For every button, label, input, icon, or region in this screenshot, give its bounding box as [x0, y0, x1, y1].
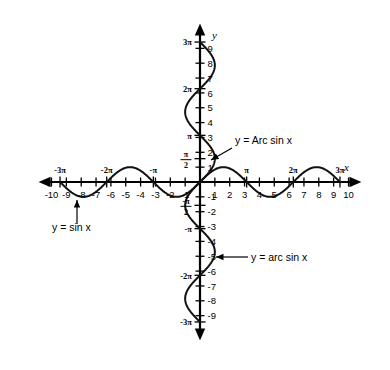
y-axis-pi-tick-label: 2π	[183, 84, 192, 94]
x-axis-pi-tick-label: 2π	[289, 165, 298, 175]
y-axis-tick-label: 3	[208, 132, 213, 143]
y-axis-pi-fraction-numerator: -π	[182, 197, 190, 206]
y-axis-tick-label: 7	[208, 73, 213, 84]
y-axis-tick-label: 5	[208, 102, 213, 113]
x-axis-tick-label: -6	[107, 189, 115, 200]
y-axis-tick-label: -5	[208, 251, 216, 262]
x-axis-tick-label: 10	[343, 189, 354, 200]
x-axis-tick-label: -2	[166, 189, 174, 200]
y-axis-pi-fraction-numerator: π	[184, 150, 189, 159]
x-axis-tick-label: 8	[316, 189, 321, 200]
y-axis-tick-label: -3	[208, 221, 216, 232]
y-axis-bottom-arrowhead	[195, 328, 205, 340]
x-axis-tick-label: -9	[62, 189, 70, 200]
x-axis-tick-label: -4	[136, 189, 144, 200]
callout-label-arcsin-relation: y = arc sin x	[251, 251, 308, 263]
y-axis-tick-label: 6	[208, 88, 213, 99]
callout-label-arcsin-principal: y = Arc sin x	[235, 134, 293, 146]
x-axis-left-arrowhead	[39, 177, 51, 187]
x-axis-tick-label: -10	[45, 189, 59, 200]
callout-label-sine: y = sin x	[52, 221, 92, 233]
y-axis-pi-tick-label: -3π	[180, 317, 192, 327]
x-axis-tick-label: -3	[151, 189, 159, 200]
x-axis-tick-label: 9	[331, 189, 336, 200]
x-axis-pi-tick-label: π	[244, 165, 249, 175]
x-axis-tick-label: 3	[242, 189, 247, 200]
coordinate-plane-svg: yx-10-9-8-7-6-5-4-3-2-112345678910-9-8-7…	[0, 0, 390, 370]
callout-arrowhead	[74, 200, 80, 208]
y-axis-tick-label: 8	[208, 58, 213, 69]
x-axis-pi-tick-label: -π	[150, 165, 158, 175]
y-axis-tick-label: -6	[208, 266, 216, 277]
x-axis-tick-label: 6	[286, 189, 291, 200]
y-axis-pi-tick-label: -2π	[180, 271, 192, 281]
x-axis-tick-label: -7	[92, 189, 100, 200]
y-axis-tick-label: -2	[208, 206, 216, 217]
x-axis-pi-tick-label: 3π	[335, 165, 344, 175]
y-axis-tick-label: 2	[208, 147, 213, 158]
y-axis-pi-fraction-denominator: 2	[184, 161, 188, 170]
y-axis-tick-label: -7	[208, 281, 216, 292]
y-axis-pi-fraction-denominator: 2	[184, 208, 188, 217]
y-axis-pi-tick-label: -π	[185, 224, 193, 234]
x-axis-tick-label: -5	[122, 189, 130, 200]
y-axis-top-arrowhead	[195, 24, 205, 36]
y-axis-tick-label: -9	[208, 310, 216, 321]
x-axis-pi-tick-label: -3π	[54, 165, 66, 175]
y-axis-tick-label: 4	[208, 117, 213, 128]
x-axis-right-arrowhead	[349, 177, 361, 187]
y-axis-name-label: y	[211, 29, 217, 41]
y-axis-pi-tick-label: π	[187, 131, 192, 141]
callout-arrowhead	[216, 254, 224, 260]
x-axis-pi-tick-label: -2π	[101, 165, 113, 175]
x-axis-tick-label: 2	[227, 189, 232, 200]
y-axis-tick-label: -1	[208, 191, 216, 202]
y-axis-tick-label: 1	[208, 162, 213, 173]
graph-figure: yx-10-9-8-7-6-5-4-3-2-112345678910-9-8-7…	[0, 0, 390, 370]
x-axis-tick-label: 7	[301, 189, 306, 200]
y-axis-tick-label: 9	[208, 43, 213, 54]
y-axis-tick-label: -4	[208, 236, 216, 247]
y-axis-tick-label: -8	[208, 295, 216, 306]
x-axis-tick-label: 4	[257, 189, 262, 200]
x-axis-tick-label: -8	[77, 189, 85, 200]
y-axis-pi-tick-label: 3π	[183, 37, 192, 47]
x-axis-tick-label: 5	[272, 189, 277, 200]
